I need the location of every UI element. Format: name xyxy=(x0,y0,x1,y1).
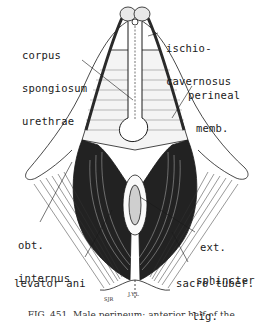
figure-caption: FIG. 451. Male perineum; anterior half o… xyxy=(0,307,271,316)
label-perineal-membrane: perineal memb. xyxy=(188,68,240,156)
label-line: sacro-tuber. xyxy=(176,278,254,289)
label-line: perineal xyxy=(188,90,240,101)
label-line: levator ani xyxy=(14,278,86,289)
artist-signature: SJR xyxy=(104,296,113,302)
label-levator-ani: levator ani xyxy=(14,256,86,311)
label-line: ischio- xyxy=(166,43,231,54)
label-line: urethrae xyxy=(22,116,87,127)
label-corpus-spongiosum: corpus spongiosum urethrae xyxy=(22,28,87,149)
label-line: corpus xyxy=(22,50,87,61)
label-line: ext. xyxy=(196,242,255,253)
label-line: obt. xyxy=(18,240,70,251)
label-line: memb. xyxy=(188,123,240,134)
label-line: spongiosum xyxy=(22,83,87,94)
small-mark: J.Y.L xyxy=(128,291,139,297)
